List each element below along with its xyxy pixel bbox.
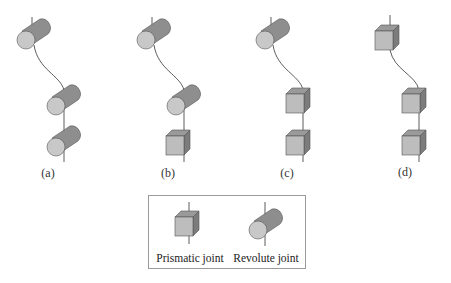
prismatic-joint-icon [402, 130, 426, 155]
prismatic-joint-icon [166, 130, 190, 155]
revolute-joint-icon [167, 85, 200, 115]
prismatic-joint-icon [286, 88, 310, 113]
legend-prismatic-label: Prismatic joint [156, 252, 223, 264]
panel-c [256, 17, 310, 162]
revolute-joint-icon [47, 85, 80, 115]
caption-b: (b) [161, 166, 175, 181]
prismatic-joint-icon [286, 130, 310, 155]
revolute-joint-icon [17, 19, 50, 49]
legend-prismatic-icon [175, 211, 199, 236]
manipulator-configurations-figure [0, 0, 451, 283]
panel-d [375, 15, 426, 162]
caption-a: (a) [41, 166, 54, 181]
revolute-joint-icon [256, 19, 289, 49]
legend-revolute-label: Revolute joint [233, 252, 298, 264]
panel-b [137, 17, 200, 162]
prismatic-joint-icon [375, 25, 399, 50]
caption-c: (c) [280, 166, 293, 181]
revolute-joint-icon [137, 19, 170, 49]
caption-d: (d) [398, 165, 412, 180]
revolute-joint-icon [47, 126, 80, 156]
panel-a [17, 17, 80, 162]
prismatic-joint-icon [402, 88, 426, 113]
